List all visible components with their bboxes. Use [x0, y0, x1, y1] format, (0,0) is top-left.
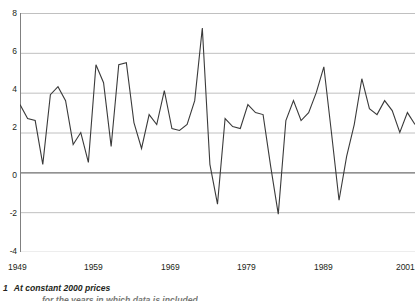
- y-tick-label: 8: [2, 9, 17, 18]
- figure-container: 8 6 4 2 0 -2 -4 1949 1959 1969 1979 1989…: [0, 0, 419, 301]
- line-chart: [20, 13, 415, 252]
- y-tick-label: -4: [2, 247, 17, 256]
- x-tick-label: 1989: [314, 263, 333, 272]
- x-tick-label: 1959: [84, 263, 103, 272]
- y-tick-label: -2: [2, 209, 17, 218]
- y-axis: 8 6 4 2 0 -2 -4: [0, 0, 17, 301]
- x-axis: 1949 1959 1969 1979 1989 2001: [0, 263, 419, 277]
- x-tick-label: 2001: [396, 263, 415, 272]
- x-tick-label: 1979: [237, 263, 256, 272]
- x-tick-label: 1949: [8, 263, 27, 272]
- footnote: 1At constant 2000 prices: [3, 283, 110, 293]
- footnote-marker: 1: [3, 283, 8, 293]
- y-tick-label: 0: [2, 171, 17, 180]
- plot-area: [20, 13, 415, 252]
- x-tick-label: 1969: [161, 263, 180, 272]
- footnote-text: At constant 2000 prices: [14, 283, 110, 293]
- y-tick-label: 6: [2, 47, 17, 56]
- axis-lines: [20, 13, 415, 252]
- y-tick-label: 2: [2, 123, 17, 132]
- gridlines: [20, 14, 415, 253]
- y-tick-label: 4: [2, 85, 17, 94]
- footnote-clipped-line: for the years in which data is included: [42, 295, 198, 301]
- series-line-annual-growth-rate: [20, 28, 415, 214]
